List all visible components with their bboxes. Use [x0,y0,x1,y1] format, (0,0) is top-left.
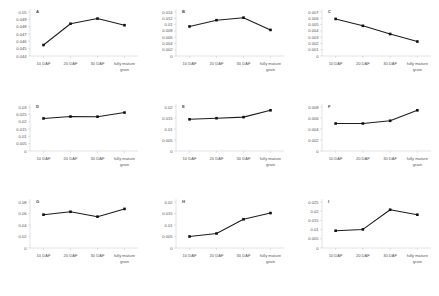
y-tick-label: 0.004 [162,41,173,46]
y-tick-label: 0.004 [308,127,319,132]
x-tick-label: fully mature [407,253,429,258]
y-tick-label: 0.014 [162,10,173,15]
y-tick-label: 0.02 [19,119,28,124]
y-tick-label: 0.005 [162,138,173,143]
panel-label-b: B [182,9,185,14]
y-tick-label: 0.03 [19,105,28,110]
y-tick-label: 0.005 [308,22,319,27]
y-tick-label: 0 [170,149,173,154]
x-tick-label: grain [266,259,276,264]
chart-panel-i: 00.0050.010.0150.020.02510 DAF20 DAF30 D… [292,190,439,296]
data-point-marker [188,25,191,28]
y-tick-label: 0.045 [16,46,27,51]
x-tick-label: 20 DAF [64,61,78,66]
series-line [44,113,125,119]
chart-panel-f: 00.0020.0040.0060.00810 DAF20 DAF30 DAFf… [292,95,439,190]
y-tick-label: 0.007 [308,10,319,15]
x-tick-label: fully mature [407,156,429,161]
chart-panel-b: 00.0020.0040.0060.0080.010.0120.01410 DA… [146,0,292,95]
y-tick-label: 0.002 [308,138,319,143]
data-point-marker [416,213,419,216]
x-tick-label: 10 DAF [183,61,197,66]
data-point-marker [69,115,72,118]
plot-area-d: 00.0050.010.0150.020.0250.0310 DAF20 DAF… [0,95,146,190]
y-tick-label: 0.05 [19,10,28,15]
y-tick-label: 0.002 [308,41,319,46]
y-tick-label: 0.006 [308,16,319,21]
x-tick-label: 30 DAF [237,61,251,66]
chart-panel-d: 00.0050.010.0150.020.0250.0310 DAF20 DAF… [0,95,146,190]
y-tick-label: 0.01 [165,127,174,132]
data-point-marker [96,115,99,118]
y-tick-label: 0.015 [16,127,27,132]
x-tick-label: fully mature [114,253,136,258]
x-tick-label: 10 DAF [329,61,343,66]
y-tick-label: 0 [24,149,27,154]
x-tick-label: 30 DAF [91,253,105,258]
y-tick-label: 0.049 [16,17,27,22]
plot-area-c: 00.0010.0020.0030.0040.0050.0060.00710 D… [292,0,439,95]
x-tick-label: grain [413,162,423,167]
x-tick-label: fully mature [260,156,282,161]
y-tick-label: 0.025 [16,112,27,117]
panel-label-h: H [182,199,185,204]
chart-panel-c: 00.0010.0020.0030.0040.0050.0060.00710 D… [292,0,439,95]
y-tick-label: 0 [170,246,173,251]
panel-label-a: A [36,9,39,14]
y-tick-label: 0.02 [165,105,174,110]
data-point-marker [188,235,191,238]
series-line [190,213,271,236]
x-tick-label: 20 DAF [356,156,370,161]
y-tick-label: 0.002 [162,47,173,52]
plot-area-a: 0.0440.0450.0460.0470.0480.0490.0510 DAF… [0,0,146,95]
y-tick-label: 0.06 [19,211,28,216]
y-tick-label: 0.048 [16,24,27,29]
data-point-marker [96,215,99,218]
y-tick-label: 0.015 [162,116,173,121]
data-point-marker [215,232,218,235]
x-tick-label: 30 DAF [383,156,397,161]
x-tick-label: 20 DAF [210,253,224,258]
data-point-marker [42,117,45,120]
x-tick-label: 10 DAF [183,253,197,258]
x-tick-label: fully mature [114,61,136,66]
x-tick-label: 10 DAF [37,253,51,258]
panel-label-i: I [328,199,329,204]
y-tick-label: 0.003 [308,35,319,40]
x-tick-label: 30 DAF [383,253,397,258]
y-tick-label: 0.08 [19,200,28,205]
data-point-marker [269,29,272,32]
x-tick-label: grain [266,67,276,72]
panel-label-f: F [328,104,331,109]
y-tick-label: 0.01 [165,223,174,228]
y-tick-label: 0.02 [311,209,320,214]
x-tick-label: fully mature [407,61,429,66]
x-tick-label: 30 DAF [383,61,397,66]
x-tick-label: grain [266,162,276,167]
data-point-marker [215,19,218,22]
x-tick-label: 20 DAF [64,253,78,258]
y-tick-label: 0.01 [19,134,28,139]
plot-area-e: 00.0050.010.0150.0210 DAF20 DAF30 DAFful… [146,95,292,190]
panel-label-e: E [182,104,185,109]
panel-label-d: D [36,104,39,109]
data-point-marker [389,33,392,36]
data-point-marker [69,210,72,213]
x-tick-label: 20 DAF [210,156,224,161]
chart-panel-a: 0.0440.0450.0460.0470.0480.0490.0510 DAF… [0,0,146,95]
data-point-marker [269,109,272,112]
y-tick-label: 0 [316,246,319,251]
x-tick-label: 20 DAF [210,61,224,66]
plot-area-f: 00.0020.0040.0060.00810 DAF20 DAF30 DAFf… [292,95,439,190]
data-point-marker [334,18,337,21]
data-point-marker [123,111,126,114]
plot-area-h: 00.0050.010.0150.0210 DAF20 DAF30 DAFful… [146,190,292,296]
x-tick-label: fully mature [260,253,282,258]
y-tick-label: 0 [316,54,319,59]
data-point-marker [416,40,419,43]
chart-panel-e: 00.0050.010.0150.0210 DAF20 DAF30 DAFful… [146,95,292,190]
data-point-marker [242,116,245,119]
y-tick-label: 0.015 [162,211,173,216]
x-tick-label: 20 DAF [356,61,370,66]
x-tick-label: 20 DAF [356,253,370,258]
